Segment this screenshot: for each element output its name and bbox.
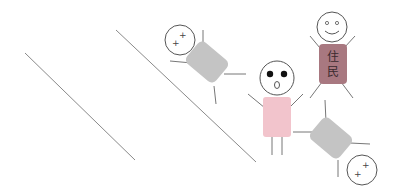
slope-line-left bbox=[25, 53, 135, 160]
dizzy-head-icon: + + bbox=[347, 155, 377, 185]
resident-label-line2: 民 bbox=[327, 65, 339, 79]
svg-text:+: + bbox=[354, 169, 362, 179]
smiling-face-icon bbox=[317, 12, 347, 42]
dizzy-head-icon: + + bbox=[165, 25, 195, 55]
surprised-figure bbox=[248, 61, 303, 155]
resident-label-line1: 住 bbox=[327, 50, 339, 64]
svg-text:+: + bbox=[179, 30, 187, 40]
fallen-figure-bottom: + + bbox=[293, 100, 377, 185]
surprised-body bbox=[263, 97, 291, 137]
illustration-canvas: + + 住 民 bbox=[0, 0, 397, 194]
fallen-figure-top: + + bbox=[165, 25, 246, 104]
surprised-face-icon bbox=[260, 61, 294, 95]
scene-svg: + + 住 民 bbox=[0, 0, 397, 194]
resident-figure: 住 民 bbox=[310, 12, 355, 98]
svg-text:+: + bbox=[362, 160, 370, 170]
